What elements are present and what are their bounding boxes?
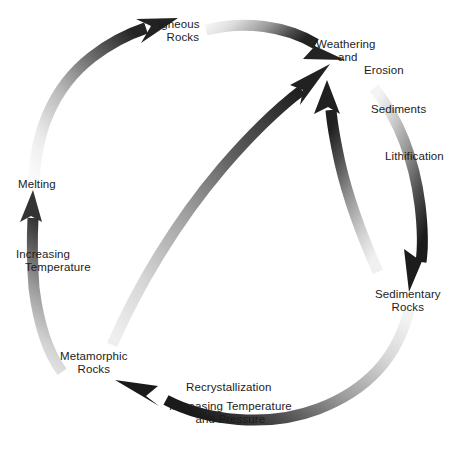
- incr-tp-line-1: Increasing Temperature: [169, 400, 292, 413]
- weathering-line-1: Weathering: [316, 38, 404, 51]
- node-label-metamorphic-rocks: Metamorphic Rocks: [60, 350, 128, 376]
- metamorphic-line-1: Metamorphic: [60, 350, 128, 363]
- node-label-sedimentary-rocks: Sedimentary Rocks: [375, 288, 441, 314]
- sedimentary-line-1: Sedimentary: [375, 288, 441, 301]
- incr-temp-line-1: Increasing: [16, 248, 91, 261]
- process-label-increasing-temperature-pressure: Increasing Temperature and Pressure: [169, 400, 292, 426]
- rock-cycle-diagram: Igneous Rocks Weathering and Erosion Sed…: [0, 0, 462, 449]
- node-label-melting: Melting: [18, 178, 56, 191]
- weathering-line-2: and: [316, 51, 404, 64]
- incr-tp-line-2: and Pressure: [169, 413, 292, 426]
- igneous-line-2: Rocks: [158, 31, 200, 44]
- arrow-metamorphic-to-weathering: [112, 64, 330, 345]
- arrow-sedimentary-to-weathering: [314, 80, 378, 272]
- node-label-weathering-erosion: Weathering and Erosion: [316, 38, 404, 78]
- igneous-line-1: Igneous: [158, 18, 200, 31]
- arrow-metamorphic-to-melting: [20, 190, 62, 372]
- process-label-sediments: Sediments: [371, 103, 426, 116]
- weathering-line-3: Erosion: [316, 64, 404, 77]
- incr-temp-line-2: Temperature: [16, 261, 91, 274]
- process-label-lithification: Lithification: [385, 150, 444, 163]
- metamorphic-line-2: Rocks: [60, 363, 128, 376]
- process-label-recrystallization: Recrystallization: [186, 381, 271, 394]
- sedimentary-line-2: Rocks: [375, 301, 441, 314]
- arrow-weathering-to-sedimentary: [374, 88, 428, 292]
- arrow-melting-to-igneous: [34, 18, 178, 188]
- process-label-increasing-temperature: Increasing Temperature: [16, 248, 91, 274]
- node-label-igneous-rocks: Igneous Rocks: [158, 18, 200, 44]
